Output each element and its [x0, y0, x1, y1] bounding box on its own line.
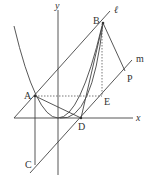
label-d: D — [78, 121, 85, 132]
segment-bp — [103, 23, 125, 71]
point-d — [80, 117, 82, 119]
point-b — [102, 22, 105, 25]
label-e: E — [104, 96, 110, 107]
label-y: y — [54, 0, 60, 11]
geometry-diagram: y x ℓ m A B C D E P — [0, 0, 154, 179]
point-a — [34, 95, 37, 98]
line-l — [14, 11, 110, 118]
label-l: ℓ — [114, 4, 118, 15]
label-a: A — [24, 90, 32, 101]
label-b: B — [93, 15, 100, 26]
curve-db — [60, 23, 103, 118]
label-p: P — [127, 73, 133, 84]
label-m: m — [136, 53, 144, 64]
label-x: x — [135, 112, 141, 123]
label-c: C — [25, 159, 32, 170]
